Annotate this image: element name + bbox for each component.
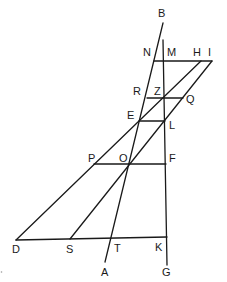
- point-label-m: M: [167, 46, 176, 58]
- line-DH: [16, 61, 201, 240]
- point-label-f: F: [169, 152, 176, 164]
- point-label-z: Z: [154, 85, 161, 97]
- point-label-l: L: [169, 119, 175, 131]
- point-label-p: P: [88, 152, 95, 164]
- line-BA: [105, 23, 163, 262]
- line-DK: [16, 237, 167, 240]
- scan-speck: [1, 271, 3, 273]
- point-label-n: N: [143, 46, 151, 58]
- point-label-g: G: [162, 266, 171, 278]
- point-label-i: I: [208, 46, 211, 58]
- diagram-lines: [16, 23, 212, 265]
- point-label-b: B: [158, 7, 165, 19]
- point-label-o: O: [119, 152, 128, 164]
- line-vertical-MG: [163, 40, 167, 265]
- point-label-s: S: [66, 243, 73, 255]
- point-label-k: K: [155, 241, 163, 253]
- point-label-a: A: [101, 266, 109, 278]
- point-label-e: E: [127, 109, 134, 121]
- point-label-t: T: [114, 242, 121, 254]
- line-SI: [70, 61, 212, 239]
- point-label-h: H: [193, 46, 201, 58]
- point-label-d: D: [12, 243, 20, 255]
- point-label-q: Q: [186, 93, 195, 105]
- point-label-r: R: [133, 85, 141, 97]
- geometric-diagram: BNMHIRZQELPOFDSTKAG: [0, 0, 227, 282]
